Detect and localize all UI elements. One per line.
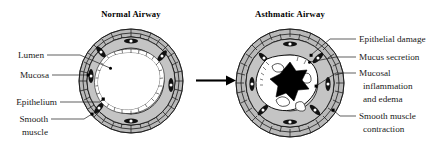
label-mucosa: Mucosa	[20, 70, 49, 80]
epithelium-anchor-dot	[102, 98, 105, 101]
mucosa-anchor-dot	[87, 74, 90, 77]
label-mucosal-inflammation-line3: and edema	[363, 94, 403, 104]
left-label-group: Lumen Mucosa Epithelium Smooth muscle	[16, 50, 57, 137]
epithelial-damage-anchor-dot	[310, 54, 313, 57]
smooth-muscle-anchor-dot	[91, 113, 94, 116]
mucus-secretion-anchor-dot	[308, 61, 311, 64]
progression-arrow	[196, 76, 236, 86]
label-epithelial-damage: Epithelial damage	[359, 34, 426, 44]
label-lumen: Lumen	[18, 50, 44, 60]
label-mucus-secretion: Mucus secretion	[359, 52, 420, 62]
label-smooth-muscle-line1: Smooth	[19, 114, 48, 124]
normal-airway-illustration	[79, 29, 183, 133]
label-smooth-muscle-contraction-line2: contraction	[363, 124, 405, 134]
label-smooth-muscle-contraction-line1: Smooth muscle	[359, 111, 416, 121]
mucosal-inflammation-anchor-dot	[315, 85, 318, 88]
label-mucosal-inflammation-line2: inflammation	[363, 81, 413, 91]
label-epithelium: Epithelium	[16, 97, 57, 107]
airway-comparison-figure: Normal Airway Asthmatic Airway	[0, 0, 442, 147]
lumen-anchor-dot	[109, 67, 112, 70]
diagram-canvas: Normal Airway Asthmatic Airway	[0, 0, 442, 147]
right-label-group: Epithelial damage Mucus secretion Mucosa…	[359, 34, 426, 134]
label-mucosal-inflammation-line1: Mucosal	[359, 68, 391, 78]
label-smooth-muscle-line2: muscle	[22, 127, 48, 137]
smooth-muscle-contraction-anchor-dot	[332, 109, 335, 112]
asthmatic-airway-title: Asthmatic Airway	[255, 9, 325, 19]
asthmatic-airway-illustration	[236, 29, 344, 137]
normal-airway-title: Normal Airway	[101, 9, 161, 19]
